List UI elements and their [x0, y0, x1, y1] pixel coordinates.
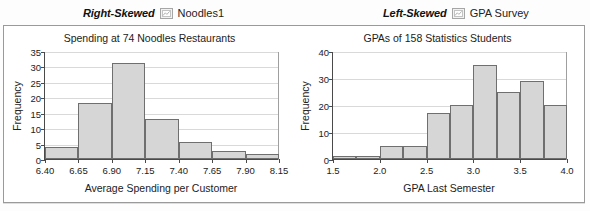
plot-canvas: 051015202530356.406.656.907.157.407.657.…	[44, 52, 278, 160]
x-axis-tick-mark	[45, 159, 46, 163]
histogram-gpa: GPAs of 158 Statistics Students Frequenc…	[292, 26, 583, 202]
x-axis-tick-label: 7.65	[203, 165, 222, 176]
y-axis-tick-label: 30	[318, 74, 329, 85]
plot-canvas: 0102030401.52.02.53.03.54.0	[332, 52, 566, 160]
x-axis-tick-label: 6.65	[69, 165, 88, 176]
histogram-bar	[520, 81, 543, 159]
y-axis-tick-mark	[41, 145, 45, 146]
histogram-bar	[112, 63, 145, 159]
x-axis-label: Average Spending per Customer	[44, 182, 278, 194]
histogram-noodles: Spending at 74 Noodles Restaurants Frequ…	[4, 26, 295, 202]
y-axis-tick-mark	[329, 79, 333, 80]
histogram-bar	[78, 103, 111, 159]
x-axis-tick-mark	[112, 159, 113, 163]
gridline	[45, 83, 278, 84]
x-axis-tick-label: 8.15	[270, 165, 289, 176]
x-axis-tick-mark	[380, 159, 381, 163]
x-axis-tick-mark	[333, 159, 334, 163]
x-axis-tick-label: 7.90	[236, 165, 255, 176]
x-axis-tick-mark	[279, 159, 280, 163]
x-axis-tick-mark	[145, 159, 146, 163]
x-axis-tick-mark	[212, 159, 213, 163]
gridline	[45, 67, 278, 68]
y-axis-tick-label: 20	[318, 101, 329, 112]
dataset-name: Noodles1	[178, 7, 224, 19]
y-axis-tick-label: 40	[318, 47, 329, 58]
y-axis-tick-label: 10	[318, 128, 329, 139]
x-axis-tick-label: 3.5	[514, 165, 527, 176]
skew-label: Left-Skewed	[383, 7, 447, 19]
y-axis-tick-label: 20	[30, 93, 41, 104]
y-axis-tick-mark	[41, 114, 45, 115]
x-axis-tick-label: 7.40	[169, 165, 188, 176]
y-axis-tick-label: 10	[30, 124, 41, 135]
histogram-bar	[427, 113, 450, 159]
x-axis-tick-label: 4.0	[560, 165, 573, 176]
y-axis-tick-label: 15	[30, 108, 41, 119]
histogram-bar	[333, 156, 356, 159]
y-axis-tick-label: 35	[30, 47, 41, 58]
histogram-bar	[145, 119, 178, 159]
panel-header-left-skewed: Left-Skewed GPA Survey	[383, 7, 529, 19]
x-axis-tick-mark	[567, 159, 568, 163]
histogram-bar	[473, 65, 496, 160]
charts-panel: Spending at 74 Noodles Restaurants Frequ…	[3, 25, 585, 203]
y-axis-tick-label: 30	[30, 62, 41, 73]
x-axis-tick-mark	[246, 159, 247, 163]
panel-headers: Right-Skewed Noodles1 Left-Skewed GPA Su…	[0, 0, 590, 28]
skew-label: Right-Skewed	[83, 7, 155, 19]
x-axis-tick-mark	[427, 159, 428, 163]
x-axis-tick-label: 7.15	[136, 165, 155, 176]
x-axis-tick-label: 2.5	[420, 165, 433, 176]
plot-area-noodles: Frequency 051015202530356.406.656.907.15…	[4, 26, 295, 202]
dataset-icon	[160, 8, 173, 19]
x-axis-tick-label: 1.5	[326, 165, 339, 176]
gridline	[333, 52, 566, 53]
figure-page: Right-Skewed Noodles1 Left-Skewed GPA Su…	[0, 0, 590, 211]
x-axis-tick-mark	[473, 159, 474, 163]
histogram-bar	[246, 154, 279, 159]
y-axis-tick-mark	[329, 133, 333, 134]
y-axis-label: Frequency	[299, 81, 311, 131]
histogram-bar	[497, 92, 520, 160]
histogram-bar	[544, 105, 567, 159]
gridline	[45, 52, 278, 53]
histogram-bar	[380, 146, 403, 160]
gridline	[45, 98, 278, 99]
panel-header-right-skewed: Right-Skewed Noodles1	[83, 7, 224, 19]
y-axis-tick-mark	[329, 106, 333, 107]
x-axis-tick-label: 3.0	[467, 165, 480, 176]
x-axis-tick-label: 2.0	[373, 165, 386, 176]
x-axis-tick-mark	[520, 159, 521, 163]
histogram-bar	[450, 105, 473, 159]
x-axis-tick-mark	[179, 159, 180, 163]
x-axis-tick-label: 6.40	[36, 165, 55, 176]
y-axis-tick-mark	[41, 98, 45, 99]
y-axis-label: Frequency	[11, 81, 23, 131]
y-axis-tick-mark	[41, 52, 45, 53]
y-axis-tick-mark	[41, 67, 45, 68]
y-axis-tick-label: 25	[30, 77, 41, 88]
y-axis-tick-mark	[329, 52, 333, 53]
y-axis-tick-mark	[41, 129, 45, 130]
dataset-icon	[452, 8, 465, 19]
dataset-name: GPA Survey	[470, 7, 529, 19]
histogram-bar	[356, 156, 379, 159]
histogram-bar	[45, 147, 78, 159]
plot-area-gpa: Frequency 0102030401.52.02.53.03.54.0 GP…	[292, 26, 583, 202]
y-axis-tick-mark	[41, 83, 45, 84]
histogram-bar	[212, 151, 245, 159]
histogram-bar	[403, 146, 426, 160]
x-axis-label: GPA Last Semester	[332, 182, 566, 194]
x-axis-tick-mark	[78, 159, 79, 163]
histogram-bar	[179, 142, 212, 159]
x-axis-tick-label: 6.90	[103, 165, 122, 176]
